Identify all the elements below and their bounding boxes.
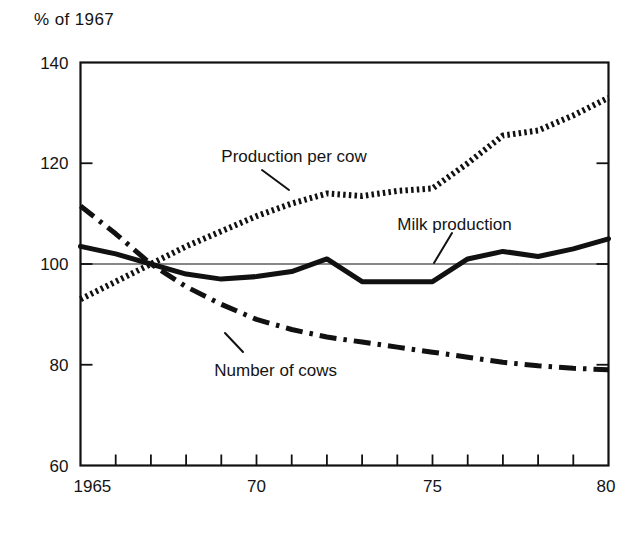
- x-tick-label-80: 80: [597, 477, 616, 496]
- leader-line-2: [225, 333, 243, 352]
- x-tick-label-1965: 1965: [74, 477, 112, 496]
- x-tick-label-75: 75: [423, 477, 442, 496]
- series-annotation-1: Milk production: [397, 215, 511, 234]
- y-tick-label-120: 120: [40, 154, 68, 173]
- y-tick-label-100: 100: [40, 255, 68, 274]
- data-series-group: [81, 98, 609, 370]
- y-tick-label-140: 140: [40, 54, 68, 73]
- x-axis-tick-labels: 1965707580: [74, 477, 616, 496]
- y-tick-label-80: 80: [50, 356, 69, 375]
- x-axis-ticks: [116, 455, 574, 466]
- y-tick-label-60: 60: [50, 457, 69, 476]
- series-annotations: Production per cowMilk productionNumber …: [214, 147, 511, 380]
- series-line-2: [81, 206, 609, 370]
- series-annotation-2: Number of cows: [214, 361, 337, 380]
- series-line-1: [81, 239, 609, 282]
- series-annotation-0: Production per cow: [221, 147, 367, 166]
- leader-line-1: [434, 233, 452, 263]
- line-chart-plot: 6080100120140 1965707580 Production per …: [0, 0, 642, 538]
- x-tick-label-70: 70: [247, 477, 266, 496]
- leader-line-0: [262, 170, 289, 190]
- chart-container: % of 1967 6080100120140 1965707580 Produ…: [0, 0, 642, 538]
- y-axis-tick-labels: 6080100120140: [40, 54, 68, 476]
